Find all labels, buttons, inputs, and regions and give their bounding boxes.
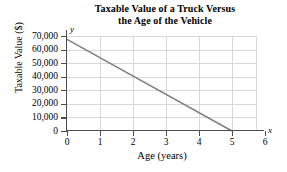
y-axis-tick xyxy=(61,36,67,37)
y-axis-tick xyxy=(61,77,67,78)
y-axis-tick xyxy=(61,63,67,64)
x-axis-tick-label: 1 xyxy=(90,137,110,147)
y-axis-tick-label: 70,000 xyxy=(12,32,58,42)
x-axis-tick xyxy=(133,131,134,136)
y-axis-tick-label: 30,000 xyxy=(12,86,58,96)
y-axis-tick-label: 50,000 xyxy=(12,59,58,69)
x-axis-tick xyxy=(232,131,233,136)
x-axis-tick-label: 3 xyxy=(156,137,176,147)
y-axis-tick-label: 20,000 xyxy=(12,99,58,109)
x-axis-title: Age (years) xyxy=(67,150,257,161)
y-axis-tick xyxy=(61,50,67,51)
y-axis-tick xyxy=(61,117,67,118)
y-axis-tick-label: 0 xyxy=(12,127,58,137)
data-series-line xyxy=(67,36,257,131)
y-axis-tick xyxy=(61,90,67,91)
y-axis-title: Taxable Value ($) xyxy=(13,3,24,113)
x-axis-tick-label: 5 xyxy=(222,137,242,147)
x-axis-tick xyxy=(265,131,266,136)
y-axis-tick-label: 40,000 xyxy=(12,72,58,82)
y-axis-tick xyxy=(61,104,67,105)
x-axis-tick-label: 2 xyxy=(123,137,143,147)
x-axis-tick xyxy=(100,131,101,136)
chart-figure: Taxable Value of a Truck Versus the Age … xyxy=(0,0,287,172)
y-axis-line xyxy=(66,30,67,131)
chart-title: Taxable Value of a Truck Versus the Age … xyxy=(60,3,270,27)
y-axis-tick-label: 60,000 xyxy=(12,45,58,55)
x-axis-tick xyxy=(166,131,167,136)
x-axis-tick-label: 6 xyxy=(255,137,275,147)
x-axis-tick-label: 4 xyxy=(189,137,209,147)
y-axis-tick-label: 10,000 xyxy=(12,113,58,123)
x-axis-letter: x xyxy=(268,125,272,135)
x-axis-tick xyxy=(199,131,200,136)
series-polyline xyxy=(67,39,232,131)
x-axis-tick xyxy=(67,131,68,136)
x-axis-tick-label: 0 xyxy=(57,137,77,147)
x-axis-line xyxy=(66,130,264,131)
y-axis-letter: y xyxy=(70,24,74,34)
chart-title-line-1: Taxable Value of a Truck Versus xyxy=(60,3,270,15)
chart-title-line-2: the Age of the Vehicle xyxy=(60,15,270,27)
